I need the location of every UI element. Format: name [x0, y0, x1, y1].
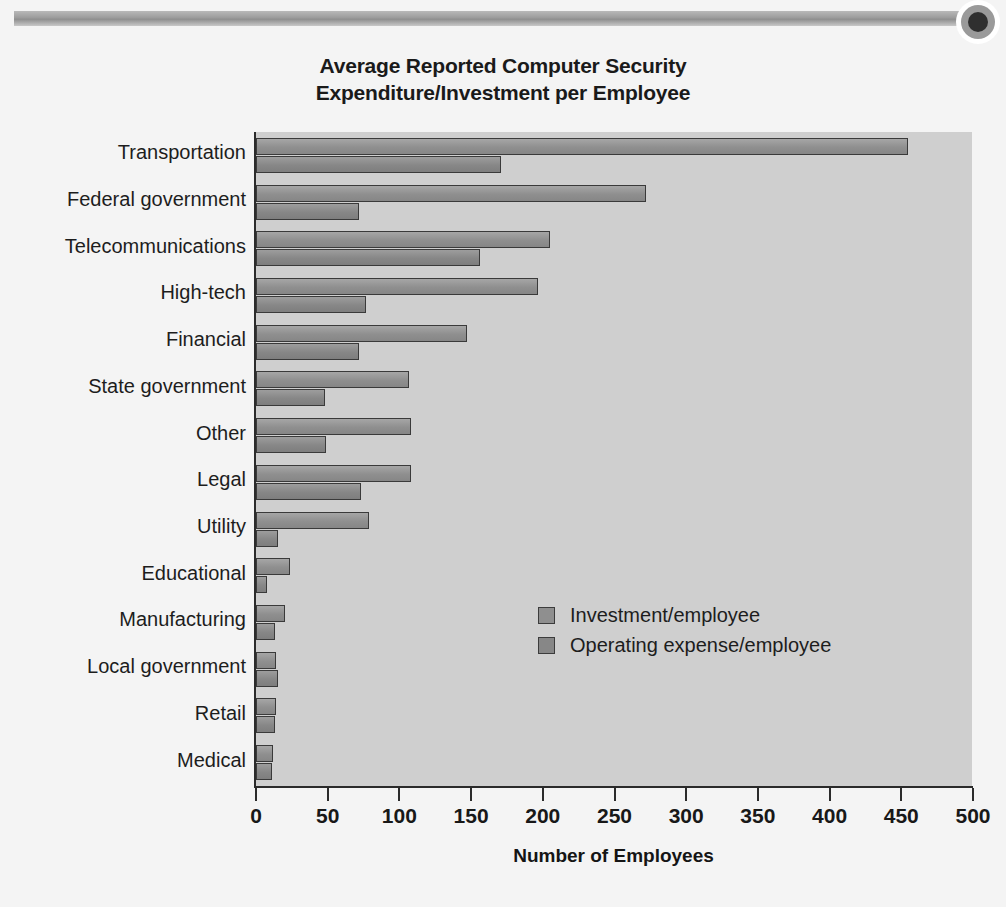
chart-legend: Investment/employeeOperating expense/emp…: [538, 600, 831, 660]
bar-row: Educational: [0, 552, 1006, 599]
bar-operating-expense: [256, 203, 359, 220]
bar-row: Legal: [0, 459, 1006, 506]
x-tick-label: 400: [795, 804, 865, 828]
bar-row: Transportation: [0, 132, 1006, 179]
bar-operating-expense: [256, 576, 267, 593]
x-tick: [900, 788, 902, 801]
bar-investment: [256, 325, 467, 342]
bar-investment: [256, 652, 276, 669]
x-tick-label: 150: [436, 804, 506, 828]
bar-row: Local government: [0, 646, 1006, 693]
x-tick: [470, 788, 472, 801]
bar-investment: [256, 278, 538, 295]
category-label: Local government: [0, 655, 246, 678]
category-label: Manufacturing: [0, 608, 246, 631]
bar-investment: [256, 605, 285, 622]
bar-row: High-tech: [0, 272, 1006, 319]
bar-operating-expense: [256, 249, 480, 266]
category-label: Federal government: [0, 188, 246, 211]
bar-row: Medical: [0, 739, 1006, 786]
x-tick: [685, 788, 687, 801]
bar-investment: [256, 138, 908, 155]
legend-swatch-icon: [538, 607, 555, 624]
x-tick-label: 50: [293, 804, 363, 828]
bar-row: Financial: [0, 319, 1006, 366]
bar-investment: [256, 698, 276, 715]
x-tick-label: 0: [221, 804, 291, 828]
x-tick: [398, 788, 400, 801]
bar-operating-expense: [256, 156, 501, 173]
legend-item: Operating expense/employee: [538, 630, 831, 660]
bar-investment: [256, 558, 290, 575]
bar-operating-expense: [256, 670, 278, 687]
category-label: Utility: [0, 515, 246, 538]
legend-item: Investment/employee: [538, 600, 831, 630]
bar-chart: TransportationFederal governmentTelecomm…: [0, 0, 1006, 907]
x-tick: [757, 788, 759, 801]
bar-investment: [256, 418, 411, 435]
x-tick: [972, 788, 974, 801]
bar-row: Federal government: [0, 179, 1006, 226]
x-tick-label: 450: [866, 804, 936, 828]
x-tick-label: 500: [938, 804, 1006, 828]
bar-operating-expense: [256, 296, 366, 313]
x-tick-label: 300: [651, 804, 721, 828]
category-label: Retail: [0, 702, 246, 725]
bar-row: Manufacturing: [0, 599, 1006, 646]
x-tick-label: 200: [508, 804, 578, 828]
x-tick-label: 350: [723, 804, 793, 828]
x-tick: [542, 788, 544, 801]
bar-investment: [256, 371, 409, 388]
x-tick: [614, 788, 616, 801]
bar-row: Retail: [0, 693, 1006, 740]
category-label: Financial: [0, 328, 246, 351]
bar-operating-expense: [256, 716, 275, 733]
bar-operating-expense: [256, 436, 326, 453]
category-label: Medical: [0, 749, 246, 772]
bar-investment: [256, 185, 646, 202]
category-label: Other: [0, 422, 246, 445]
bar-row: Telecommunications: [0, 225, 1006, 272]
bar-investment: [256, 745, 273, 762]
x-tick: [255, 788, 257, 801]
bar-operating-expense: [256, 530, 278, 547]
x-tick: [829, 788, 831, 801]
category-label: Telecommunications: [0, 235, 246, 258]
category-label: Educational: [0, 562, 246, 585]
x-tick-label: 250: [580, 804, 650, 828]
bar-row: Other: [0, 412, 1006, 459]
category-label: State government: [0, 375, 246, 398]
legend-swatch-icon: [538, 637, 555, 654]
x-tick: [327, 788, 329, 801]
bar-investment: [256, 231, 550, 248]
bar-row: State government: [0, 366, 1006, 413]
bar-operating-expense: [256, 763, 272, 780]
legend-label: Operating expense/employee: [570, 634, 831, 657]
x-axis-title: Number of Employees: [255, 845, 972, 867]
category-label: Transportation: [0, 141, 246, 164]
category-label: High-tech: [0, 281, 246, 304]
bar-row: Utility: [0, 506, 1006, 553]
category-label: Legal: [0, 468, 246, 491]
bar-investment: [256, 512, 369, 529]
bar-investment: [256, 465, 411, 482]
x-tick-label: 100: [364, 804, 434, 828]
legend-label: Investment/employee: [570, 604, 760, 627]
bar-operating-expense: [256, 483, 361, 500]
bar-operating-expense: [256, 343, 359, 360]
bar-operating-expense: [256, 623, 275, 640]
bar-operating-expense: [256, 389, 325, 406]
